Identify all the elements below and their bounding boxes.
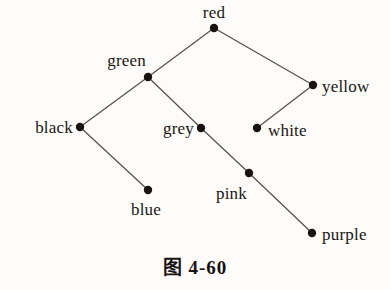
graph-node-grey[interactable] [197,124,205,132]
graph-node-blue[interactable] [144,186,152,194]
graph-node-green[interactable] [144,73,152,81]
node-label-red: red [203,4,225,21]
graph-edge-green-black [80,77,148,127]
graph-edge-grey-pink [201,128,249,173]
graph-node-white[interactable] [253,124,261,132]
graph-node-pink[interactable] [245,169,253,177]
graph-canvas [0,0,390,290]
graph-node-purple[interactable] [308,229,316,237]
node-label-grey: grey [163,120,194,137]
node-label-yellow: yellow [322,78,369,95]
node-label-pink: pink [216,185,247,202]
figure-caption: 图 4-60 [0,252,390,279]
graph-edge-red-yellow [214,28,313,85]
graph-edge-black-blue [80,127,148,190]
graph-node-yellow[interactable] [309,81,317,89]
graph-edge-red-green [148,28,214,77]
figure-container: redgreenyellowblackgreywhitebluepinkpurp… [0,0,390,290]
node-label-white: white [268,122,307,139]
node-label-blue: blue [131,201,161,218]
graph-node-red[interactable] [210,24,218,32]
node-label-purple: purple [322,226,367,243]
node-label-green: green [107,52,146,69]
graph-edge-pink-purple [249,173,312,233]
graph-node-black[interactable] [76,123,84,131]
node-label-black: black [35,119,73,136]
